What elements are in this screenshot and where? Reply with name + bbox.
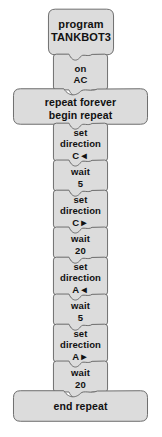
block-label-line: direction (60, 138, 101, 149)
block-label-line: program (58, 18, 103, 31)
block-label-line: wait (71, 367, 90, 378)
block-label-line: TANKBOT3 (51, 31, 111, 44)
block-label-line: wait (71, 233, 90, 244)
block-label-line: repeat forever (45, 96, 116, 108)
block-label-line: direction (60, 339, 101, 350)
block-label-line: wait (71, 300, 90, 311)
block-label-line: wait (71, 166, 90, 177)
block-label-line: on (75, 63, 87, 74)
block-label-line: set (73, 194, 87, 205)
block-label-line: set (73, 261, 87, 272)
block-label: end repeat (12, 390, 149, 422)
block-end-repeat[interactable]: end repeat (12, 390, 149, 422)
block-program-canvas: programTANKBOT3onACrepeat foreverbegin r… (0, 0, 162, 437)
block-label-line: direction (60, 205, 101, 216)
block-label-line: direction (60, 272, 101, 283)
block-label-line: end repeat (53, 400, 107, 412)
block-label-line: set (73, 328, 87, 339)
block-label-line: set (73, 127, 87, 138)
